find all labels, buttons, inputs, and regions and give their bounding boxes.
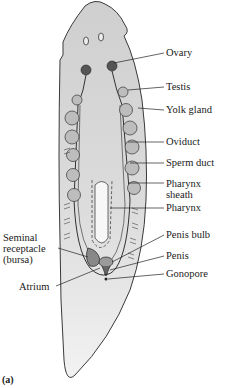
label-testis: Testis xyxy=(166,81,190,92)
penis-bulb xyxy=(99,257,113,267)
planarian-diagram: Ovary Testis Yolk gland Oviduct Sperm du… xyxy=(0,0,238,388)
label-gonopore: Gonopore xyxy=(166,268,208,279)
pharynx xyxy=(95,182,108,244)
gonopore-dot xyxy=(105,278,108,281)
label-penis: Penis xyxy=(166,250,189,261)
figure-caption: (a) xyxy=(2,374,14,385)
eye-left xyxy=(84,37,89,45)
label-ovary: Ovary xyxy=(166,47,192,58)
label-pharynx: Pharynx xyxy=(166,202,201,213)
label-seminal-receptacle: Seminal receptacle (bursa) xyxy=(3,232,67,265)
ovary-left xyxy=(81,65,91,75)
label-sperm-duct: Sperm duct xyxy=(166,157,214,168)
eye-right xyxy=(99,33,104,41)
label-atrium: Atrium xyxy=(19,281,49,292)
label-oviduct: Oviduct xyxy=(166,136,200,147)
label-pharynx-sheath: Pharynx sheath xyxy=(166,178,216,200)
label-yolk-gland: Yolk gland xyxy=(166,104,212,115)
label-penis-bulb: Penis bulb xyxy=(166,229,210,240)
